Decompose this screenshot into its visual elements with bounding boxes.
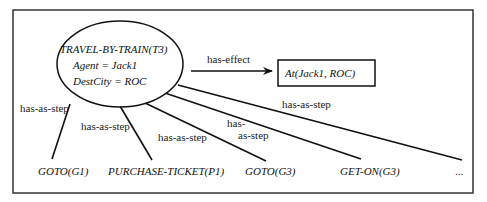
edge-label-step-4a: has- [227,117,246,129]
step-node-goto-g1: GOTO(G1) [38,165,89,178]
root-node-agent: Agent = Jack1 [72,59,137,71]
edge-label-step-5: has-as-step [282,98,331,110]
plan-diagram: TRAVEL-BY-TRAIN(T3) Agent = Jack1 DestCi… [0,0,487,202]
step-node-ellipsis: ... [455,165,464,177]
edge-label-has-effect: has-effect [207,53,250,65]
edge-label-step-1: has-as-step [20,102,69,114]
edge-purchase-ticket [120,106,152,160]
step-node-get-on: GET-ON(G3) [340,165,400,178]
root-node-title: TRAVEL-BY-TRAIN(T3) [60,43,168,56]
edge-label-step-2: has-as-step [81,120,130,132]
effect-node-label: At(Jack1, ROC) [284,67,356,80]
edge-more-steps [178,85,462,160]
edge-label-step-4b: as-step [238,129,269,141]
step-node-goto-g3: GOTO(G3) [245,165,296,178]
edge-label-step-3: has-as-step [158,131,207,143]
root-node-destcity: DestCity = ROC [72,75,147,87]
step-node-purchase-ticket: PURCHASE-TICKET(P1) [107,165,224,178]
